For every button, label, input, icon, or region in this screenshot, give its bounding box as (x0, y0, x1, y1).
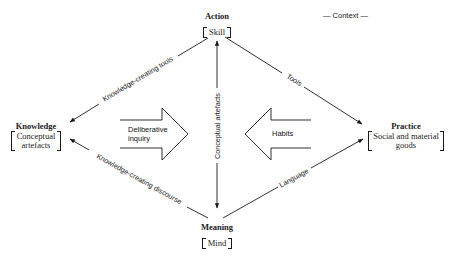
edge-language: Language (223, 139, 363, 218)
edge-label: Conceptual artefacts (213, 93, 222, 159)
node-subtitle: Conceptual artefacts (11, 131, 62, 151)
edge-label: Knowledge-creating discourse (95, 152, 184, 207)
label-line: inquiry (128, 134, 168, 143)
node-subtitle: Mind (202, 238, 232, 249)
edge-label: Language (278, 166, 310, 189)
node-subtitle: Social and material goods (368, 131, 444, 151)
context-label: — Context — (323, 11, 368, 20)
deliberative-inquiry-label: Deliberative inquiry (128, 125, 168, 143)
node-practice: Practice Social and material goods (366, 121, 446, 152)
node-meaning: Meaning Mind (192, 222, 242, 250)
node-subtitle-line: artefacts (17, 141, 56, 150)
node-action: Action Skill (192, 11, 242, 39)
label-line: Deliberative (128, 125, 168, 134)
edge-tools: Tools (225, 37, 362, 124)
edge-label: Tools (285, 72, 304, 89)
node-subtitle: Skill (203, 27, 231, 38)
node-title: Practice (366, 121, 446, 131)
node-knowledge: Knowledge Conceptual artefacts (6, 121, 66, 152)
node-subtitle-line: goods (373, 141, 439, 150)
habits-label: Habits (272, 129, 293, 138)
node-title: Action (192, 11, 242, 21)
node-title: Meaning (192, 222, 242, 232)
edge-label: Knowledge-creating tools (101, 54, 175, 103)
edge-knowledge-creating-tools: Knowledge-creating tools (70, 38, 208, 122)
edge-knowledge-creating-discourse: Knowledge-creating discourse (70, 139, 208, 218)
node-title: Knowledge (6, 121, 66, 131)
edge-conceptual-artefacts: Conceptual artefacts (213, 41, 222, 208)
